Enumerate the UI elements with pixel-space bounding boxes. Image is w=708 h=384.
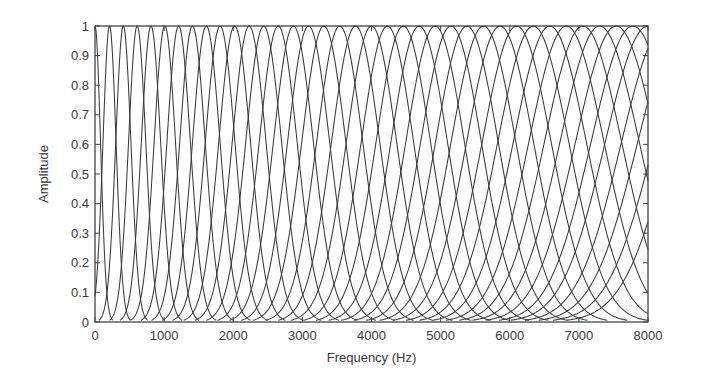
x-tick-label: 0 [91, 328, 98, 343]
y-tick-label: 0.9 [71, 48, 89, 63]
y-tick-label: 0.7 [71, 107, 89, 122]
filter-curve [525, 48, 648, 320]
x-tick-label: 8000 [634, 328, 663, 343]
y-tick-label: 0.3 [71, 226, 89, 241]
filter-curve [95, 26, 131, 320]
filter-curve [511, 26, 648, 320]
y-axis-title: Amplitude [36, 145, 51, 203]
y-tick-label: 0.4 [71, 196, 89, 211]
y-tick-label: 0.6 [71, 137, 89, 152]
filter-curve [406, 26, 627, 320]
filter-curve [472, 26, 648, 320]
filter-curve [539, 102, 648, 320]
filter-curve [380, 26, 588, 320]
y-tick-label: 0.8 [71, 78, 89, 93]
x-tick-label: 4000 [357, 328, 386, 343]
y-tick-label: 0.2 [71, 255, 89, 270]
x-tick-label: 1000 [150, 328, 179, 343]
filter-curve [278, 26, 433, 320]
filter-curve [266, 26, 414, 320]
filter-curve [120, 26, 182, 320]
filter-curve [206, 26, 321, 320]
x-tick-label: 5000 [426, 328, 455, 343]
y-tick-label: 0 [82, 315, 89, 330]
x-tick-label: 7000 [564, 328, 593, 343]
filter-curve [419, 26, 647, 320]
filter-bank-chart: 00.10.20.30.40.50.60.70.80.91 0100020003… [0, 0, 708, 384]
filter-curve [95, 26, 113, 320]
y-tick-label: 0.1 [71, 285, 89, 300]
x-axis-title: Frequency (Hz) [327, 350, 417, 365]
x-tick-label: 3000 [288, 328, 317, 343]
x-tick-label: 6000 [495, 328, 524, 343]
y-tick-label: 0.5 [71, 167, 89, 182]
y-tick-label: 1 [82, 19, 89, 34]
x-tick-label: 2000 [219, 328, 248, 343]
filter-curves [95, 26, 648, 320]
